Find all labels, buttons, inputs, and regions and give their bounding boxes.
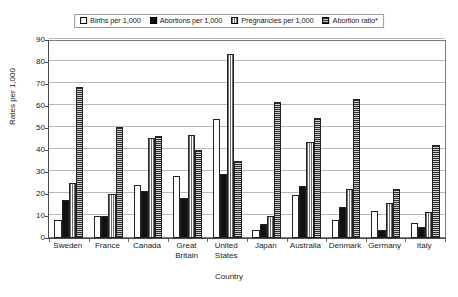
bar (346, 189, 353, 238)
y-tick-label-30: 30 (23, 168, 45, 176)
x-axis-labels: SwedenFranceCanadaGreat BritainUnited St… (48, 241, 446, 275)
legend-label-abortions: Abortions per 1,000 (160, 16, 223, 25)
bar (180, 198, 187, 238)
y-tick-mark-10 (45, 216, 48, 217)
y-axis-ticks: 0102030405060708090 (20, 40, 45, 238)
bar (353, 99, 360, 238)
bar (148, 138, 155, 238)
y-tick-label-40: 40 (23, 146, 45, 154)
y-tick-label-20: 20 (23, 190, 45, 198)
bar (371, 211, 378, 238)
bar (141, 191, 148, 238)
bar (378, 230, 385, 238)
legend-item-abortion-ratio: Abortion ratio* (323, 16, 378, 25)
legend-item-births: Births per 1,000 (80, 16, 141, 25)
y-tick-label-70: 70 (23, 80, 45, 88)
bar (274, 102, 281, 238)
bar (332, 220, 339, 238)
chart-container: Births per 1,000 Abortions per 1,000 Pre… (0, 0, 458, 297)
x-tick-label-japan: Japan (246, 241, 286, 251)
bar (220, 174, 227, 238)
x-tick-label-australia: Australia (286, 241, 326, 251)
gridline-90 (49, 38, 445, 39)
abortions-swatch-icon (150, 17, 157, 24)
bar (188, 135, 195, 238)
bar (101, 216, 108, 238)
bar (134, 185, 141, 238)
y-tick-mark-70 (45, 84, 48, 85)
y-tick-mark-50 (45, 128, 48, 129)
bar (267, 216, 274, 238)
x-tick-label-sweden: Sweden (48, 241, 88, 251)
bar (292, 195, 299, 238)
bar (425, 212, 432, 238)
y-tick-label-0: 0 (23, 234, 45, 242)
y-tick-label-90: 90 (23, 36, 45, 44)
legend-item-abortions: Abortions per 1,000 (150, 16, 223, 25)
pregnancies-swatch-icon (231, 17, 238, 24)
x-tick-label-denmark: Denmark (325, 241, 365, 251)
bar (252, 230, 259, 238)
bar (393, 189, 400, 238)
bar (432, 145, 439, 238)
y-tick-label-80: 80 (23, 58, 45, 66)
bar (234, 161, 241, 238)
x-tick-label-united-states: United States (206, 241, 246, 261)
bar (155, 136, 162, 238)
y-tick-label-50: 50 (23, 124, 45, 132)
legend-item-pregnancies: Pregnancies per 1,000 (231, 16, 313, 25)
bar (94, 216, 101, 238)
bar (173, 176, 180, 238)
bar (227, 54, 234, 238)
y-tick-mark-30 (45, 172, 48, 173)
bar (76, 87, 83, 238)
x-tick-label-canada: Canada (127, 241, 167, 251)
bar (108, 194, 115, 238)
legend-label-abortion-ratio: Abortion ratio* (333, 16, 378, 25)
bar (116, 127, 123, 238)
x-axis-title: Country (0, 272, 458, 281)
bar (411, 223, 418, 238)
y-tick-mark-20 (45, 194, 48, 195)
x-tick-label-italy: Italy (404, 241, 444, 251)
bar (299, 186, 306, 238)
bar (54, 220, 61, 238)
chart-legend: Births per 1,000 Abortions per 1,000 Pre… (74, 14, 384, 28)
y-axis-title: Rates per 1,000 (8, 47, 17, 147)
y-tick-label-10: 10 (23, 212, 45, 220)
x-tick-label-great-britain: Great Britain (167, 241, 207, 261)
bar (386, 203, 393, 238)
bar (306, 142, 313, 238)
bar (418, 227, 425, 238)
x-tick-label-germany: Germany (365, 241, 405, 251)
y-tick-mark-60 (45, 106, 48, 107)
abortion-ratio-swatch-icon (323, 17, 330, 24)
bar (213, 119, 220, 238)
y-tick-label-60: 60 (23, 102, 45, 110)
bar (260, 224, 267, 238)
y-tick-mark-80 (45, 62, 48, 63)
legend-label-births: Births per 1,000 (90, 16, 141, 25)
bar (339, 207, 346, 238)
bar (314, 118, 321, 238)
bar (69, 183, 76, 238)
bar (195, 150, 202, 238)
y-tick-mark-40 (45, 150, 48, 151)
bar (62, 200, 69, 238)
y-tick-mark-90 (45, 40, 48, 41)
x-tick-label-france: France (88, 241, 128, 251)
births-swatch-icon (80, 17, 87, 24)
legend-label-pregnancies: Pregnancies per 1,000 (241, 16, 313, 25)
bars-layer (49, 40, 445, 238)
